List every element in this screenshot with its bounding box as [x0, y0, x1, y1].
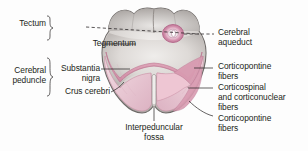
label-interpeduncular-fossa-line2: fossa — [104, 133, 204, 143]
label-corticopontine-lower-line2: fibers — [218, 124, 238, 134]
interpeduncular-fossa-notch — [152, 75, 156, 107]
midbrain-cross-section-figure: Tectum Tegmentum Cerebral peduncle Subst… — [0, 0, 308, 151]
label-cerebral-aqueduct-line2: aqueduct — [218, 38, 252, 48]
label-tectum: Tectum — [2, 19, 46, 29]
label-tegmentum: Tegmentum — [50, 39, 136, 49]
tectum-brace — [47, 16, 53, 40]
corticopontine-lower-leader — [189, 101, 213, 116]
label-substantia-nigra-line2: nigra — [48, 74, 100, 84]
label-corticospinal-line3: fibers — [218, 103, 238, 113]
cerebral-aqueduct — [163, 25, 184, 43]
label-corticopontine-upper-line2: fibers — [218, 72, 238, 82]
label-crus-cerebri: Crus cerebri — [44, 87, 110, 97]
aqueduct-lumen — [172, 30, 176, 37]
label-cerebral-peduncle-line2: peduncle — [0, 76, 46, 86]
